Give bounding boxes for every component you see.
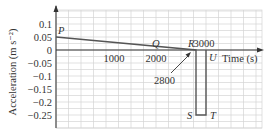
y-tick-label: 0.05 <box>34 32 52 43</box>
point-label-r: R <box>187 38 195 49</box>
y-tick-label: 0.1 <box>39 19 52 30</box>
point-label-p: P <box>57 25 65 36</box>
point-label-u: U <box>209 52 218 63</box>
x-tick-label: 1000 <box>104 53 125 64</box>
point-label-t: T <box>210 110 217 121</box>
x-tick-label: 2000 <box>146 53 167 64</box>
acceleration-time-graph: 0.10.050−0.05−0.1−0.15−0.2−0.25100020003… <box>0 0 268 138</box>
point-label-s: S <box>187 110 193 121</box>
grid <box>56 10 262 128</box>
y-tick-label: −0.25 <box>28 110 52 121</box>
point-label-q: Q <box>152 38 160 49</box>
y-tick-label: 0 <box>47 45 52 56</box>
y-axis-label: Acceleration (m s⁻²) <box>7 28 19 115</box>
x-tick-label: 3000 <box>194 38 215 49</box>
annotation-2800: 2800 <box>154 75 175 86</box>
y-tick-label: −0.05 <box>28 58 52 69</box>
x-axis-label: Time (s) <box>222 53 258 65</box>
y-tick-label: −0.1 <box>33 71 52 82</box>
y-tick-label: −0.2 <box>33 97 52 108</box>
y-tick-label: −0.15 <box>28 84 52 95</box>
axes <box>54 5 265 128</box>
